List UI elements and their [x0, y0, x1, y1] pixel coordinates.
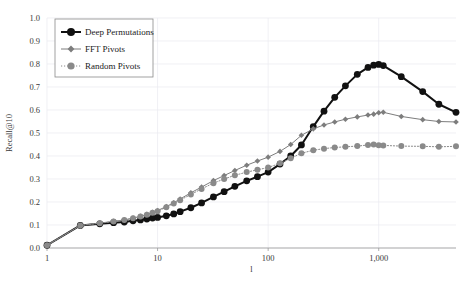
- data-point-marker: [332, 144, 338, 150]
- data-point-marker: [97, 220, 103, 226]
- data-point-marker: [163, 212, 170, 219]
- chart-canvas: 0.00.10.20.30.40.50.60.70.80.91.0 110100…: [0, 0, 465, 285]
- data-point-marker: [199, 186, 205, 192]
- data-point-marker: [67, 62, 74, 69]
- data-point-marker: [380, 62, 387, 69]
- data-point-marker: [243, 177, 250, 184]
- y-tick-label: 0.3: [29, 174, 40, 184]
- data-point-marker: [419, 88, 426, 95]
- data-point-marker: [232, 172, 238, 178]
- data-point-marker: [177, 208, 184, 215]
- data-point-marker: [365, 112, 371, 118]
- data-point-marker: [170, 211, 177, 218]
- data-point-marker: [354, 71, 361, 78]
- data-point-marker: [342, 82, 349, 89]
- data-point-marker: [453, 109, 460, 116]
- data-point-marker: [277, 160, 283, 166]
- x-tick-label: 100: [262, 253, 275, 263]
- data-point-marker: [67, 28, 75, 36]
- series-line: [47, 64, 456, 245]
- data-point-marker: [298, 142, 305, 149]
- legend-label: FFT Pivots: [85, 44, 126, 54]
- data-point-marker: [188, 191, 194, 197]
- data-point-marker: [321, 146, 327, 152]
- y-tick-label: 0.8: [29, 59, 40, 69]
- data-point-marker: [265, 154, 271, 160]
- data-point-marker: [130, 215, 136, 221]
- data-point-marker: [371, 142, 377, 148]
- data-point-marker: [310, 147, 316, 153]
- data-point-marker: [244, 162, 250, 168]
- data-point-marker: [221, 176, 227, 182]
- data-point-marker: [354, 143, 360, 149]
- data-point-marker: [380, 142, 386, 148]
- data-series-group: [44, 61, 460, 249]
- data-point-marker: [255, 158, 261, 164]
- y-tick-label: 0.2: [29, 197, 40, 207]
- data-point-marker: [420, 117, 426, 123]
- y-tick-label: 0.6: [29, 105, 40, 115]
- data-point-marker: [277, 149, 283, 155]
- series-line: [47, 145, 456, 246]
- data-point-marker: [221, 188, 228, 195]
- data-point-marker: [453, 119, 459, 125]
- data-point-marker: [436, 144, 442, 150]
- data-point-marker: [265, 165, 271, 171]
- data-point-marker: [44, 242, 50, 248]
- data-point-marker: [121, 217, 127, 223]
- x-axis-tick-labels: 1101001,000: [45, 248, 388, 263]
- x-axis-title: l: [250, 264, 253, 274]
- data-point-marker: [376, 110, 382, 116]
- x-tick-label: 10: [153, 253, 162, 263]
- data-point-marker: [321, 108, 328, 115]
- y-tick-label: 0.4: [29, 151, 40, 161]
- data-point-marker: [288, 155, 294, 161]
- chart-legend: Deep PermutationsFFT PivotsRandom Pivots: [55, 19, 154, 77]
- legend-label: Deep Permutations: [85, 27, 154, 37]
- data-point-marker: [321, 122, 327, 128]
- x-tick-label: 1,000: [369, 253, 388, 263]
- data-point-marker: [342, 144, 348, 150]
- y-tick-label: 0.5: [29, 128, 40, 138]
- y-tick-label: 1.0: [29, 13, 40, 23]
- series-2: [44, 142, 459, 249]
- series-0: [44, 61, 460, 249]
- data-point-marker: [365, 142, 371, 148]
- data-point-marker: [354, 114, 360, 120]
- data-point-marker: [398, 73, 405, 80]
- data-point-marker: [137, 213, 143, 219]
- data-point-marker: [398, 114, 404, 120]
- data-point-marker: [420, 143, 426, 149]
- data-point-marker: [177, 197, 183, 203]
- data-point-marker: [155, 208, 161, 214]
- data-point-marker: [163, 204, 169, 210]
- data-point-marker: [398, 143, 404, 149]
- data-point-marker: [77, 222, 83, 228]
- data-point-marker: [298, 150, 304, 156]
- y-axis-tick-labels: 0.00.10.20.30.40.50.60.70.80.91.0: [29, 13, 40, 253]
- legend-label: Random Pivots: [85, 61, 141, 71]
- data-point-marker: [144, 212, 150, 218]
- data-point-marker: [210, 194, 217, 201]
- data-point-marker: [453, 143, 459, 149]
- y-tick-label: 0.9: [29, 36, 40, 46]
- data-point-marker: [154, 214, 161, 221]
- data-point-marker: [254, 173, 261, 180]
- data-point-marker: [171, 201, 177, 207]
- data-point-marker: [435, 101, 442, 108]
- data-point-marker: [331, 94, 338, 101]
- data-point-marker: [210, 180, 216, 186]
- y-tick-label: 0.0: [29, 243, 40, 253]
- data-point-marker: [343, 116, 349, 122]
- recall-vs-l-chart: 0.00.10.20.30.40.50.60.70.80.91.0 110100…: [0, 0, 465, 285]
- data-point-marker: [244, 169, 250, 175]
- data-point-marker: [198, 200, 205, 207]
- data-point-marker: [187, 204, 194, 211]
- y-axis-title: Recall@10: [4, 114, 14, 152]
- data-point-marker: [436, 119, 442, 125]
- data-point-marker: [111, 219, 117, 225]
- data-point-marker: [371, 111, 377, 117]
- data-point-marker: [254, 167, 260, 173]
- data-point-marker: [332, 119, 338, 125]
- y-tick-label: 0.1: [29, 220, 40, 230]
